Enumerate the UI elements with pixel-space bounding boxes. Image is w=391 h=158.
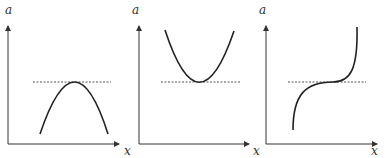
panel-inflection: a x [259,3,378,158]
maximum-curve [40,82,108,134]
panel-maximum: a x [5,3,131,158]
diagram-canvas: a x a x a x [0,0,391,158]
panel-minimum: a x [132,3,260,158]
y-axis-label: a [5,3,12,17]
inflection-curve [293,27,357,130]
x-axis-label: x [371,144,378,158]
y-axis-label: a [132,3,139,17]
y-axis-label: a [259,3,266,17]
x-axis-label: x [124,144,131,158]
minimum-curve [165,30,234,82]
x-axis-label: x [253,144,260,158]
